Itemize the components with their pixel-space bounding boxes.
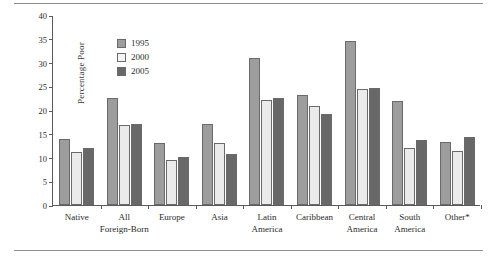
bar-group xyxy=(196,16,244,205)
bar xyxy=(369,88,380,205)
x-axis-tick-mark xyxy=(243,205,244,209)
bar xyxy=(273,98,284,205)
bar xyxy=(464,137,475,205)
bar-group xyxy=(148,16,196,205)
y-axis-tick: 40 xyxy=(29,11,53,21)
bar xyxy=(261,100,272,205)
x-axis-label-line1: Asia xyxy=(211,212,228,222)
x-axis-label-line1: All xyxy=(119,212,131,222)
bar-group-bars xyxy=(433,16,481,205)
bar xyxy=(214,143,225,205)
bar xyxy=(321,114,332,205)
x-axis-label-line2: America xyxy=(235,224,299,236)
bar xyxy=(309,106,320,205)
bar xyxy=(154,143,165,205)
bar xyxy=(119,125,130,205)
y-axis-tick-label: 10 xyxy=(39,154,48,164)
bar xyxy=(392,101,403,205)
y-axis-tick: 10 xyxy=(29,154,53,164)
bar-group-bars xyxy=(148,16,196,205)
y-axis-tick: 0 xyxy=(29,201,53,211)
x-axis-tick-mark xyxy=(481,205,482,209)
top-rule xyxy=(14,3,483,4)
bar xyxy=(178,157,189,205)
legend: 199520002005 xyxy=(117,36,149,78)
bar-group xyxy=(386,16,434,205)
legend-item: 1995 xyxy=(117,36,149,50)
x-axis-label-line2: America xyxy=(378,224,442,236)
bar-group xyxy=(243,16,291,205)
legend-label: 1995 xyxy=(131,38,149,48)
bar-group-bars xyxy=(338,16,386,205)
bar-group-bars xyxy=(243,16,291,205)
x-axis-tick-mark xyxy=(338,205,339,209)
bar xyxy=(345,41,356,205)
bar xyxy=(297,95,308,205)
x-axis-label-line1: South xyxy=(399,212,420,222)
y-axis-tick-label: 30 xyxy=(39,59,48,69)
y-axis-tick: 30 xyxy=(29,59,53,69)
y-axis-tick-label: 15 xyxy=(39,130,48,140)
bar xyxy=(107,98,118,205)
x-axis-tick-mark xyxy=(101,205,102,209)
y-axis-tick-label: 35 xyxy=(39,35,48,45)
bar xyxy=(404,148,415,205)
bar xyxy=(59,139,70,205)
bar xyxy=(71,152,82,205)
bar xyxy=(357,89,368,205)
bar xyxy=(249,58,260,205)
legend-item: 2005 xyxy=(117,64,149,78)
legend-swatch xyxy=(117,53,126,62)
y-axis-tick: 5 xyxy=(29,177,53,187)
x-axis-label: Other* xyxy=(425,212,489,224)
x-axis-label-line1: Native xyxy=(65,212,89,222)
bar xyxy=(202,124,213,205)
y-axis-tick: 20 xyxy=(29,106,53,116)
x-axis-label-line1: Europe xyxy=(159,212,185,222)
x-axis-label-line1: Latin xyxy=(257,212,276,222)
x-axis-tick-mark xyxy=(433,205,434,209)
y-axis-tick: 35 xyxy=(29,35,53,45)
x-axis-label-line1: Caribbean xyxy=(296,212,333,222)
y-axis-tick-label: 0 xyxy=(43,201,47,211)
bar-group-bars xyxy=(386,16,434,205)
bar xyxy=(226,154,237,205)
x-axis-tick-mark xyxy=(196,205,197,209)
bar-group xyxy=(338,16,386,205)
y-axis-tick-label: 25 xyxy=(39,82,48,92)
legend-swatch xyxy=(117,67,126,76)
legend-item: 2000 xyxy=(117,50,149,64)
y-axis-tick-label: 20 xyxy=(39,106,48,116)
y-axis-tick-mark xyxy=(49,206,53,207)
bar-group xyxy=(433,16,481,205)
x-axis-label-line1: Other* xyxy=(445,212,470,222)
bar xyxy=(166,160,177,205)
bar xyxy=(83,148,94,205)
y-axis-tick-label: 5 xyxy=(43,177,47,187)
legend-label: 2000 xyxy=(131,52,149,62)
legend-label: 2005 xyxy=(131,66,149,76)
bottom-rule xyxy=(14,250,483,251)
plot-frame: Percentage Poor 0510152025303540 NativeA… xyxy=(52,16,480,206)
x-axis-label-line1: Central xyxy=(349,212,376,222)
x-axis-tick-mark xyxy=(386,205,387,209)
bar xyxy=(416,140,427,205)
bar-group-bars xyxy=(291,16,339,205)
y-axis-tick: 15 xyxy=(29,130,53,140)
x-axis-label-line2: Foreign-Born xyxy=(93,224,157,236)
bar xyxy=(440,142,451,205)
legend-swatch xyxy=(117,39,126,48)
bar xyxy=(452,151,463,205)
bar-group-bars xyxy=(196,16,244,205)
figure-container: Percentage Poor 0510152025303540 NativeA… xyxy=(0,0,497,265)
bar-group xyxy=(291,16,339,205)
x-axis-tick-mark xyxy=(291,205,292,209)
y-axis-tick: 25 xyxy=(29,82,53,92)
x-axis-tick-mark xyxy=(148,205,149,209)
y-axis-tick-label: 40 xyxy=(39,11,48,21)
bar-group xyxy=(53,16,101,205)
bar xyxy=(131,124,142,205)
bar-group-bars xyxy=(53,16,101,205)
